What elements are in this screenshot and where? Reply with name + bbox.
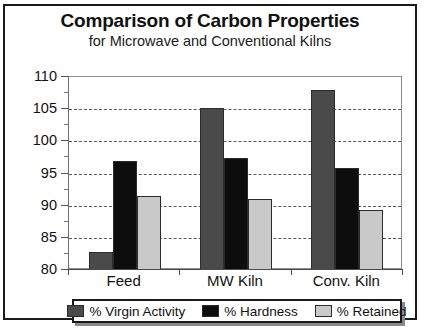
- legend-swatch: [67, 305, 84, 317]
- x-axis-tick: [291, 269, 292, 275]
- x-axis-tick: [68, 269, 69, 275]
- y-axis-line: [68, 76, 69, 270]
- legend-label: % Virgin Activity: [89, 304, 185, 319]
- legend-label: % Retained: [337, 304, 407, 319]
- chart-subtitle: for Microwave and Conventional Kilns: [5, 33, 415, 49]
- y-axis-tick-label: 90: [11, 197, 57, 213]
- bar: [224, 158, 248, 270]
- gridline: [69, 141, 401, 142]
- x-axis-tick: [402, 269, 403, 275]
- x-axis-tick: [179, 269, 180, 275]
- bar: [89, 252, 113, 270]
- y-axis-tick-label: 100: [11, 132, 57, 148]
- bar: [359, 210, 383, 270]
- x-axis-category-label: MW Kiln: [207, 272, 263, 289]
- legend-label: % Hardness: [224, 304, 298, 319]
- chart-title: Comparison of Carbon Properties: [5, 10, 415, 32]
- bar: [113, 161, 137, 270]
- chart-legend: % Virgin Activity% Hardness% Retained: [72, 299, 402, 323]
- y-axis-tick: [61, 173, 68, 174]
- y-axis-tick-label: 105: [11, 100, 57, 116]
- y-axis-tick: [61, 237, 68, 238]
- bar: [200, 108, 224, 270]
- x-axis-line: [68, 269, 403, 270]
- x-axis-category-label: Feed: [107, 272, 141, 289]
- legend-swatch: [202, 305, 219, 317]
- y-axis-tick: [61, 205, 68, 206]
- y-axis-tick-label: 110: [11, 68, 57, 84]
- legend-swatch: [315, 305, 332, 317]
- y-axis-tick: [61, 108, 68, 109]
- bar: [311, 90, 335, 270]
- y-axis-tick: [61, 140, 68, 141]
- legend-entry: % Retained: [315, 304, 407, 319]
- figure-frame: Comparison of Carbon Properties for Micr…: [3, 4, 417, 320]
- y-axis-tick-label: 95: [11, 165, 57, 181]
- legend-entry: % Virgin Activity: [67, 304, 185, 319]
- y-axis-tick: [61, 76, 68, 77]
- y-axis-tick-label: 80: [11, 261, 57, 277]
- bar: [335, 168, 359, 270]
- plot-area: [68, 76, 402, 269]
- gridline: [69, 109, 401, 110]
- legend-entry: % Hardness: [202, 304, 298, 319]
- y-axis-tick-label: 85: [11, 229, 57, 245]
- y-axis-tick: [61, 269, 68, 270]
- bar: [248, 199, 272, 270]
- x-axis-category-label: Conv. Kiln: [313, 272, 380, 289]
- bar: [137, 196, 161, 270]
